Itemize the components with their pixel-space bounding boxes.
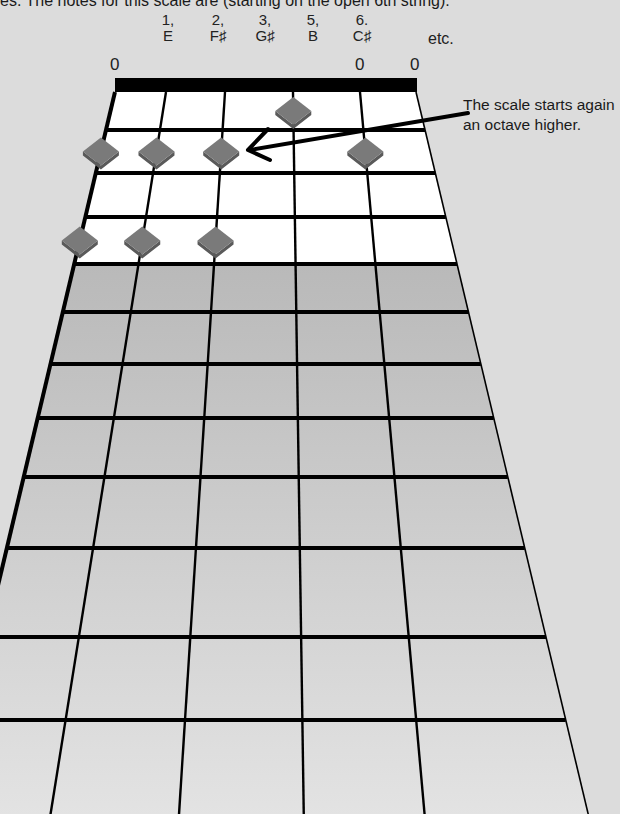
callout-line-1: The scale starts again: [463, 95, 615, 115]
callout-line-2: an octave higher.: [463, 115, 615, 135]
octave-callout: The scale starts again an octave higher.: [463, 95, 615, 135]
nut-bar: [115, 78, 417, 92]
